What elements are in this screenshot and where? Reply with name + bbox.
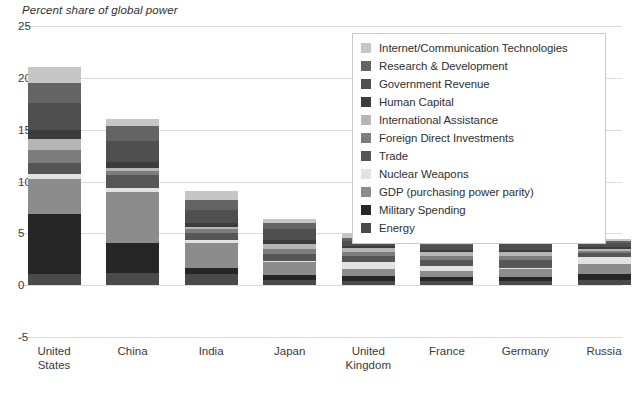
legend-label: Nuclear Weapons	[379, 168, 469, 180]
legend-item[interactable]: GDP (purchasing power parity)	[359, 183, 599, 201]
bar-stack-segments	[185, 191, 238, 285]
bar-segment[interactable]	[28, 103, 81, 130]
bar-segment[interactable]	[263, 280, 316, 285]
bar-segment[interactable]	[106, 126, 159, 142]
legend-swatch-icon	[361, 79, 371, 89]
x-tick-label-line: India	[166, 344, 256, 358]
chart-figure: Percent share of global power 2520151050…	[0, 0, 640, 395]
legend-swatch-icon	[361, 151, 371, 161]
bar-segment[interactable]	[578, 257, 631, 264]
legend-swatch-icon	[361, 97, 371, 107]
x-tick-label-line: States	[9, 358, 99, 372]
legend-item[interactable]: Nuclear Weapons	[359, 165, 599, 183]
chart-legend: Internet/Communication TechnologiesResea…	[352, 33, 606, 244]
bar-segment[interactable]	[28, 163, 81, 174]
x-tick-label-line: China	[88, 344, 178, 358]
bar-segment[interactable]	[499, 269, 552, 277]
x-axis-category-labels: UnitedStatesChinaIndiaJapanUnitedKingdom…	[18, 344, 622, 389]
bar-segment[interactable]	[28, 179, 81, 213]
legend-label: Government Revenue	[379, 78, 490, 90]
bar-segment[interactable]	[106, 141, 159, 162]
x-tick-label: UnitedKingdom	[323, 344, 413, 372]
x-tick-label: France	[402, 344, 492, 358]
legend-label: International Assistance	[379, 114, 498, 126]
x-tick-label-line: Japan	[245, 344, 335, 358]
legend-item[interactable]: Energy	[359, 219, 599, 237]
legend-item[interactable]: Government Revenue	[359, 75, 599, 93]
x-tick-label-line: Russia	[559, 344, 640, 358]
bar-segment[interactable]	[263, 254, 316, 261]
bar-segment[interactable]	[28, 67, 81, 84]
bar-stack-segments	[106, 119, 159, 285]
bar-segment[interactable]	[28, 139, 81, 150]
x-tick-label: Russia	[559, 344, 640, 358]
bar-segment[interactable]	[499, 260, 552, 267]
bar-segment[interactable]	[263, 229, 316, 239]
bar-segment[interactable]	[185, 243, 238, 268]
chart-title: Percent share of global power	[22, 4, 178, 16]
legend-item[interactable]: International Assistance	[359, 111, 599, 129]
bar-segment[interactable]	[106, 175, 159, 187]
legend-item[interactable]: Internet/Communication Technologies	[359, 39, 599, 57]
x-tick-label: China	[88, 344, 178, 358]
legend-label: Trade	[379, 150, 408, 162]
legend-label: GDP (purchasing power parity)	[379, 186, 534, 198]
bar-segment[interactable]	[28, 214, 81, 274]
legend-item[interactable]: Human Capital	[359, 93, 599, 111]
bar-segment[interactable]	[342, 269, 395, 276]
bar-segment[interactable]	[499, 281, 552, 285]
gridline--5	[18, 337, 622, 338]
legend-item[interactable]: Trade	[359, 147, 599, 165]
legend-swatch-icon	[361, 133, 371, 143]
bar-stack-segments	[263, 219, 316, 285]
bar-segment[interactable]	[185, 200, 238, 209]
bar-segment[interactable]	[28, 130, 81, 139]
bar-segment[interactable]	[106, 273, 159, 285]
x-tick-label: Germany	[480, 344, 570, 358]
bar-segment[interactable]	[28, 274, 81, 285]
legend-item[interactable]: Research & Development	[359, 57, 599, 75]
legend-swatch-icon	[361, 169, 371, 179]
bar-segment[interactable]	[106, 192, 159, 243]
legend-label: Energy	[379, 222, 415, 234]
x-tick-label-line: Germany	[480, 344, 570, 358]
bar-segment[interactable]	[263, 262, 316, 274]
bar-segment[interactable]	[28, 150, 81, 162]
bar-segment[interactable]	[578, 264, 631, 273]
bar-segment[interactable]	[106, 243, 159, 273]
legend-swatch-icon	[361, 205, 371, 215]
bar-segment[interactable]	[28, 83, 81, 103]
bar-stack-segments	[28, 67, 81, 286]
bar-segment[interactable]	[342, 281, 395, 285]
legend-label: Research & Development	[379, 60, 508, 72]
legend-label: Military Spending	[379, 204, 466, 216]
x-tick-label-line: United	[9, 344, 99, 358]
x-tick-label-line: United	[323, 344, 413, 358]
bar-segment[interactable]	[185, 210, 238, 223]
legend-swatch-icon	[361, 115, 371, 125]
x-tick-label-line: France	[402, 344, 492, 358]
x-tick-label: Japan	[245, 344, 335, 358]
bar-stack-segments	[420, 239, 473, 286]
legend-label: Internet/Communication Technologies	[379, 42, 568, 54]
bar-segment[interactable]	[185, 191, 238, 200]
legend-item[interactable]: Military Spending	[359, 201, 599, 219]
legend-swatch-icon	[361, 43, 371, 53]
legend-label: Foreign Direct Investments	[379, 132, 514, 144]
x-tick-label: India	[166, 344, 256, 358]
legend-swatch-icon	[361, 61, 371, 71]
x-tick-label-line: Kingdom	[323, 358, 413, 372]
bar-stack-segments	[578, 239, 631, 286]
x-tick-label: UnitedStates	[9, 344, 99, 372]
legend-swatch-icon	[361, 223, 371, 233]
bar-segment[interactable]	[578, 280, 631, 285]
bar-segment[interactable]	[420, 281, 473, 285]
legend-label: Human Capital	[379, 96, 454, 108]
bar-segment[interactable]	[185, 274, 238, 285]
legend-swatch-icon	[361, 187, 371, 197]
legend-item[interactable]: Foreign Direct Investments	[359, 129, 599, 147]
